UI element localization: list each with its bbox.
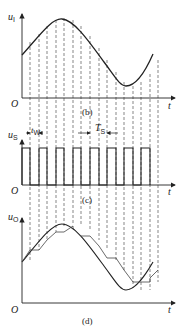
output-staircase <box>22 226 158 282</box>
x-axis-label: t <box>168 186 171 197</box>
y-axis-label: uO <box>8 211 19 223</box>
panel-caption: (b) <box>82 107 93 117</box>
panel-caption: (d) <box>82 316 93 326</box>
x-axis-label: t <box>168 304 171 315</box>
y-axis-label: uS <box>8 129 18 141</box>
origin-label: O <box>11 304 18 315</box>
input-sine-curve <box>22 19 153 86</box>
panel-d-output-signal: uO O t (d) <box>8 211 175 326</box>
sampling-diagram: uI O t (b) uS tW TS O t (c) uO O t <box>0 0 181 333</box>
sampling-period-annotation: TS <box>78 122 118 135</box>
svg-text:TS: TS <box>95 122 106 135</box>
origin-label: O <box>11 185 18 196</box>
sampling-guide-lines <box>30 18 158 292</box>
panel-caption: (c) <box>82 195 92 205</box>
x-axis-label: t <box>168 100 171 111</box>
pulse-train <box>22 148 150 185</box>
y-axis-label: uI <box>8 11 15 23</box>
output-smooth-curve <box>22 224 153 290</box>
origin-label: O <box>11 98 18 109</box>
pulse-width-annotation: tW <box>26 125 43 136</box>
